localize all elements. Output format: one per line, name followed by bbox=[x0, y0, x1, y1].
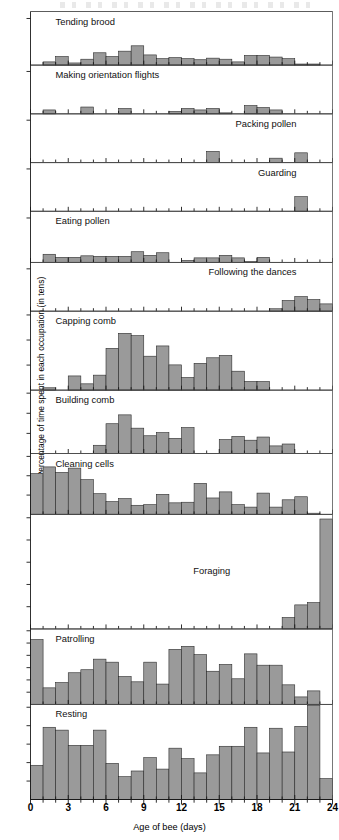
bar bbox=[119, 51, 132, 65]
bar bbox=[194, 773, 207, 800]
bar bbox=[144, 662, 157, 704]
bar bbox=[144, 255, 157, 262]
bar bbox=[244, 55, 257, 65]
x-axis-label: Age of bee (days) bbox=[0, 822, 339, 832]
bar bbox=[295, 297, 308, 312]
bar bbox=[282, 300, 295, 311]
bar bbox=[219, 59, 232, 65]
bar bbox=[169, 649, 182, 704]
panel-label: Tending brood bbox=[56, 16, 115, 27]
bar bbox=[194, 483, 207, 514]
bar bbox=[144, 758, 157, 800]
bar bbox=[295, 726, 308, 799]
bar bbox=[207, 108, 220, 113]
bar bbox=[295, 153, 308, 163]
bar bbox=[156, 59, 169, 65]
bar bbox=[257, 55, 270, 65]
bar bbox=[131, 336, 144, 390]
bar bbox=[81, 256, 94, 263]
bar bbox=[144, 356, 157, 390]
bar bbox=[182, 759, 195, 800]
bar bbox=[320, 779, 333, 800]
bar bbox=[295, 197, 308, 212]
x-tick-label: 9 bbox=[141, 802, 147, 813]
bar bbox=[144, 436, 157, 454]
bar bbox=[270, 158, 283, 162]
bar bbox=[169, 503, 182, 515]
panel-label: Foraging bbox=[193, 565, 230, 576]
panel-label: Guarding bbox=[258, 167, 297, 178]
bar bbox=[307, 603, 320, 629]
bar bbox=[169, 58, 182, 66]
bar bbox=[106, 57, 119, 66]
bar bbox=[43, 467, 56, 515]
bar bbox=[169, 438, 182, 453]
bar bbox=[169, 365, 182, 390]
panel-cleaning-cells: Cleaning cells bbox=[27, 454, 333, 515]
bar bbox=[257, 257, 270, 262]
panel-foraging: Foraging bbox=[27, 514, 333, 629]
bar bbox=[43, 62, 56, 65]
bar bbox=[68, 468, 81, 514]
bar bbox=[119, 677, 132, 705]
bar bbox=[106, 256, 119, 262]
x-tick-label: 12 bbox=[176, 802, 187, 813]
bar bbox=[56, 257, 69, 262]
bar bbox=[219, 355, 232, 390]
bar bbox=[232, 746, 245, 799]
bar bbox=[232, 258, 245, 263]
bar bbox=[219, 492, 232, 515]
bar bbox=[81, 107, 94, 114]
bar bbox=[244, 381, 257, 390]
bar bbox=[282, 500, 295, 515]
bar bbox=[169, 748, 182, 799]
bar bbox=[81, 745, 94, 799]
panel-following-the-dances: Following the dances bbox=[27, 262, 333, 311]
bar bbox=[232, 505, 245, 515]
bar bbox=[31, 640, 44, 705]
bar bbox=[106, 348, 119, 390]
panel-label: Packing pollen bbox=[236, 118, 297, 129]
bar bbox=[257, 665, 270, 704]
bar bbox=[119, 499, 132, 515]
bar bbox=[307, 691, 320, 705]
bar bbox=[219, 664, 232, 704]
bar bbox=[270, 665, 283, 704]
bar bbox=[219, 255, 232, 262]
bee-occupation-figure: Percentage of time spent in each occupat… bbox=[0, 0, 339, 840]
panel-eating-pollen: Eating pollen bbox=[27, 211, 333, 262]
bar bbox=[119, 333, 132, 390]
bar bbox=[257, 437, 270, 453]
x-tick-label: 18 bbox=[251, 802, 262, 813]
x-tick-label: 15 bbox=[214, 802, 225, 813]
bar bbox=[31, 765, 44, 799]
bar bbox=[232, 62, 245, 65]
bar bbox=[282, 752, 295, 800]
panel-tending-brood: Tending brood bbox=[27, 12, 333, 66]
panel-resting: Resting bbox=[27, 704, 333, 799]
panel-label: Making orientation flights bbox=[56, 69, 160, 80]
bar bbox=[68, 673, 81, 705]
panel-building-comb: Building comb bbox=[27, 390, 333, 453]
bar bbox=[156, 494, 169, 514]
bar bbox=[257, 753, 270, 800]
bar bbox=[93, 445, 106, 453]
bar bbox=[119, 256, 132, 262]
bar bbox=[282, 444, 295, 454]
bar bbox=[93, 53, 106, 65]
bar bbox=[56, 57, 69, 66]
bar bbox=[81, 384, 94, 390]
panel-patrolling: Patrolling bbox=[27, 629, 333, 705]
bar bbox=[56, 730, 69, 799]
bar bbox=[295, 697, 308, 705]
bar bbox=[106, 763, 119, 799]
bar bbox=[119, 777, 132, 800]
bar bbox=[207, 498, 220, 514]
bar bbox=[282, 59, 295, 65]
bar bbox=[307, 705, 320, 799]
bar bbox=[156, 433, 169, 454]
bar bbox=[307, 300, 320, 312]
bar bbox=[270, 110, 283, 114]
panel-label: Building comb bbox=[56, 394, 115, 405]
bar bbox=[282, 685, 295, 705]
